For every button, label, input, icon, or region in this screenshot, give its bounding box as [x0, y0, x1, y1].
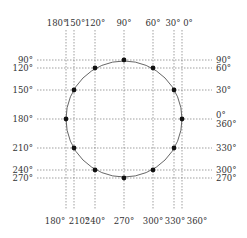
horizontal-gridlines [37, 60, 212, 178]
angle-label: 360° [187, 216, 207, 226]
angle-point [64, 117, 69, 122]
right-angle-labels: 90°60°30°0°360°330°300°270° [216, 55, 236, 183]
angle-label: 240° [85, 216, 105, 226]
angle-label: 60° [145, 18, 160, 28]
angle-point [151, 168, 156, 173]
angle-label: 300° [143, 216, 163, 226]
angle-label: 150° [65, 18, 85, 28]
unit-circle-diagram: 180°150°120°90°60°30°0° 180°210°240°270°… [0, 0, 247, 238]
angle-label: 210° [13, 143, 33, 153]
angle-point [122, 176, 127, 181]
angle-point [151, 66, 156, 71]
angle-label: 0° [183, 18, 193, 28]
left-angle-labels: 90°120°150°180°210°240°270° [13, 55, 33, 183]
angle-label: 360° [216, 119, 236, 129]
angle-label: 330° [216, 143, 236, 153]
angle-label: 270° [216, 173, 236, 183]
angle-label: 120° [13, 63, 33, 73]
angle-label: 150° [13, 85, 33, 95]
angle-label: 30° [165, 18, 180, 28]
angle-label: 270° [114, 216, 134, 226]
angle-label: 330° [165, 216, 185, 226]
angle-point [180, 117, 185, 122]
angle-point [172, 146, 177, 151]
angle-point [72, 146, 77, 151]
angle-label: 180° [45, 216, 65, 226]
angle-point [122, 58, 127, 63]
angle-point [172, 88, 177, 93]
bottom-angle-labels: 180°210°240°270°300°330°360° [45, 216, 207, 226]
angle-label: 180° [13, 114, 33, 124]
angle-label: 90° [116, 18, 131, 28]
angle-label: 30° [216, 85, 231, 95]
angle-label: 270° [13, 173, 33, 183]
angle-point [72, 88, 77, 93]
angle-label: 120° [85, 18, 105, 28]
angle-point [93, 168, 98, 173]
angle-label: 60° [216, 63, 231, 73]
angle-point [93, 66, 98, 71]
diagram-canvas: 180°150°120°90°60°30°0° 180°210°240°270°… [0, 0, 247, 238]
top-angle-labels: 180°150°120°90°60°30°0° [47, 18, 193, 28]
vertical-gridlines [66, 30, 182, 210]
